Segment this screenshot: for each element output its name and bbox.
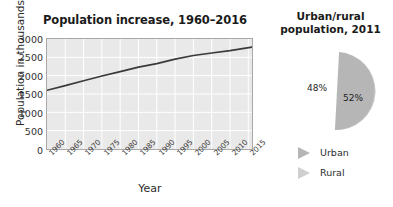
y-tick-label: 1000 xyxy=(3,109,43,119)
pie-chart-legend: Urban Rural xyxy=(296,142,391,182)
pie-chart-graphic: 48% 52% xyxy=(296,51,376,131)
x-axis-title: Year xyxy=(46,182,254,195)
line-chart-title: Population increase, 1960–2016 xyxy=(30,13,260,27)
pie-chart-title: Urban/rural population, 2011 xyxy=(268,10,393,36)
y-tick-label: 1500 xyxy=(3,90,43,100)
legend-item-urban[interactable]: Urban xyxy=(296,142,391,162)
pie-slice-urban xyxy=(334,52,375,130)
y-tick-label: 0 xyxy=(3,146,43,156)
figure-two-charts: Population increase, 1960–2016 Populatio… xyxy=(0,0,393,207)
x-axis-tick-labels: 1960 1965 1970 1975 1980 1985 1990 1995 … xyxy=(46,151,256,181)
y-tick-label: 2500 xyxy=(3,53,43,63)
pie-slice-label-rural: 48% xyxy=(307,83,327,93)
line-chart-plot-area xyxy=(46,38,253,150)
pie-chart-panel: Urban/rural population, 2011 48% 52% xyxy=(268,0,393,207)
pie-chart-title-line2: population, 2011 xyxy=(268,23,393,36)
pie-chart-title-line1: Urban/rural xyxy=(268,10,393,23)
y-axis-tick-labels: 3000 2500 2000 1500 1000 500 0 xyxy=(0,0,43,207)
y-tick-label: 3000 xyxy=(3,35,43,45)
pie-slice-label-urban: 52% xyxy=(343,93,363,103)
horizontal-gridlines xyxy=(47,57,252,130)
legend-item-rural[interactable]: Rural xyxy=(296,162,391,182)
line-chart-svg xyxy=(47,39,252,149)
triangle-right-icon xyxy=(296,145,312,159)
line-chart-panel: Population increase, 1960–2016 Populatio… xyxy=(0,0,268,207)
population-line-series xyxy=(47,47,252,90)
y-tick-label: 2000 xyxy=(3,72,43,82)
triangle-right-icon xyxy=(296,165,312,179)
legend-label-rural: Rural xyxy=(320,167,345,178)
y-tick-label: 500 xyxy=(3,127,43,137)
legend-label-urban: Urban xyxy=(320,147,349,158)
